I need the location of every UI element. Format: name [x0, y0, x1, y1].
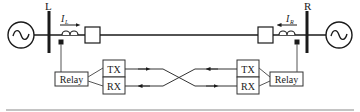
svg-text:RX: RX: [241, 81, 256, 92]
left-ct-terminal: [59, 40, 64, 45]
communication-channels: [125, 69, 237, 86]
left-generator-icon: [8, 22, 34, 48]
left-current-transformer-icon: [62, 31, 78, 35]
left-relay-label: Relay: [60, 74, 83, 85]
right-rx-box: RX: [237, 77, 259, 94]
right-current-indicator: I R: [279, 13, 297, 25]
right-relay-label: Relay: [275, 74, 298, 85]
right-bus-label: R: [304, 0, 312, 12]
right-ct-terminal: [295, 40, 300, 45]
left-current-subscript: L: [64, 19, 69, 25]
right-current-subscript: R: [289, 19, 294, 25]
left-rx-box: RX: [103, 77, 125, 94]
left-circuit-breaker: [85, 27, 100, 43]
left-current-indicator: I L: [60, 13, 78, 25]
left-bus-label: L: [45, 0, 52, 12]
right-relay: Relay: [270, 72, 303, 86]
left-tx-box: TX: [103, 60, 125, 77]
right-tx-box: TX: [237, 60, 259, 77]
right-generator-icon: [326, 22, 352, 48]
svg-text:TX: TX: [107, 64, 121, 75]
protection-diagram: L I L Relay TX RX TX RX: [0, 0, 360, 112]
svg-text:TX: TX: [241, 64, 255, 75]
right-current-transformer-icon: [279, 31, 295, 35]
right-circuit-breaker: [258, 27, 273, 43]
left-relay: Relay: [55, 72, 88, 86]
svg-text:RX: RX: [107, 81, 122, 92]
